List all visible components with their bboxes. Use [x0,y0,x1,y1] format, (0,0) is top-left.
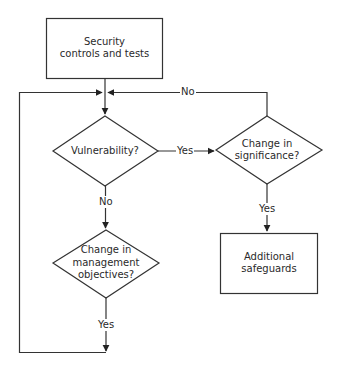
start-box-text: Security controls and tests [46,18,163,78]
significance-line-1: Change in [242,138,293,151]
management-line-2: management [73,257,140,270]
safeguards-line-1: Additional [244,251,294,264]
vulnerability-text: Vulnerability? [60,140,150,162]
edge-label-sig-yes: Yes [258,203,276,215]
management-text: Change in management objectives? [60,244,152,282]
vulnerability-line-1: Vulnerability? [71,145,139,158]
edge-label-vuln-yes: Yes [176,145,194,157]
significance-text: Change in significance? [222,136,312,164]
management-line-1: Change in [81,244,132,257]
edge-label-vuln-no: No [98,196,114,208]
management-line-3: objectives? [78,269,134,282]
safeguards-text: Additional safeguards [220,233,318,293]
start-line-2: controls and tests [60,48,149,61]
edge-label-sig-no: No [180,86,196,98]
safeguards-line-2: safeguards [241,263,296,276]
significance-line-2: significance? [235,150,300,163]
start-line-1: Security [84,36,125,49]
edge-label-mgmt-yes: Yes [97,319,115,331]
